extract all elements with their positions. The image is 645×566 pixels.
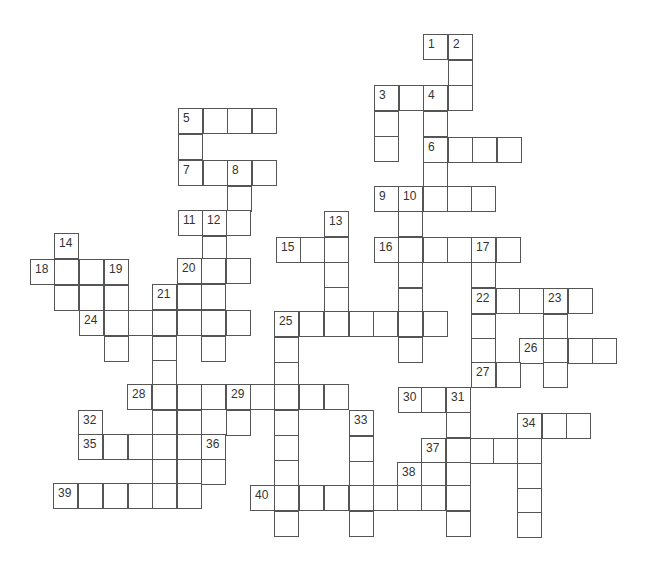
- crossword-cell[interactable]: [128, 310, 153, 336]
- crossword-cell-33[interactable]: 33: [349, 410, 374, 436]
- crossword-cell[interactable]: [398, 237, 423, 263]
- crossword-cell[interactable]: [177, 310, 202, 336]
- crossword-cell-32[interactable]: 32: [78, 410, 103, 436]
- crossword-cell-25[interactable]: 25: [274, 311, 299, 337]
- crossword-cell[interactable]: [79, 285, 104, 311]
- crossword-cell[interactable]: [54, 285, 79, 311]
- crossword-cell[interactable]: [152, 384, 177, 410]
- crossword-cell[interactable]: [446, 511, 471, 537]
- crossword-cell-30[interactable]: 30: [398, 387, 423, 413]
- crossword-cell[interactable]: [324, 287, 349, 313]
- crossword-cell[interactable]: [227, 108, 252, 134]
- crossword-cell[interactable]: [496, 288, 521, 314]
- crossword-cell-9[interactable]: 9: [374, 186, 399, 212]
- crossword-cell-6[interactable]: 6: [423, 137, 448, 163]
- crossword-cell[interactable]: [397, 485, 422, 511]
- crossword-cell[interactable]: [104, 285, 129, 311]
- crossword-cell[interactable]: [398, 337, 423, 363]
- crossword-cell-8[interactable]: 8: [227, 160, 252, 186]
- crossword-cell[interactable]: [517, 512, 542, 538]
- crossword-cell[interactable]: [471, 262, 496, 288]
- crossword-cell[interactable]: [349, 485, 374, 511]
- crossword-cell[interactable]: [421, 485, 446, 511]
- crossword-cell[interactable]: [152, 459, 177, 485]
- crossword-cell[interactable]: [446, 412, 471, 438]
- crossword-cell-23[interactable]: 23: [543, 288, 568, 314]
- crossword-cell[interactable]: [274, 435, 299, 461]
- crossword-cell-10[interactable]: 10: [398, 186, 423, 212]
- crossword-cell[interactable]: [421, 387, 446, 413]
- crossword-cell[interactable]: [104, 336, 129, 362]
- crossword-cell[interactable]: [399, 85, 424, 111]
- crossword-cell-15[interactable]: 15: [276, 237, 301, 263]
- crossword-cell[interactable]: [349, 461, 374, 487]
- crossword-cell-35[interactable]: 35: [78, 434, 103, 460]
- crossword-cell[interactable]: [324, 384, 349, 410]
- crossword-cell[interactable]: [398, 211, 423, 237]
- crossword-cell[interactable]: [446, 485, 471, 511]
- crossword-cell-13[interactable]: 13: [324, 211, 349, 237]
- crossword-cell-16[interactable]: 16: [374, 237, 399, 263]
- crossword-cell-19[interactable]: 19: [104, 259, 129, 285]
- crossword-cell-26[interactable]: 26: [519, 338, 544, 364]
- crossword-cell[interactable]: [497, 137, 522, 163]
- crossword-cell[interactable]: [177, 284, 202, 310]
- crossword-cell[interactable]: [592, 338, 617, 364]
- crossword-cell-20[interactable]: 20: [177, 258, 202, 284]
- crossword-cell[interactable]: [373, 485, 398, 511]
- crossword-cell-24[interactable]: 24: [79, 310, 104, 336]
- crossword-cell-3[interactable]: 3: [374, 85, 399, 111]
- crossword-cell[interactable]: [201, 384, 226, 410]
- crossword-cell[interactable]: [349, 436, 374, 462]
- crossword-cell[interactable]: [252, 160, 277, 186]
- crossword-cell[interactable]: [568, 288, 593, 314]
- crossword-cell[interactable]: [178, 134, 203, 160]
- crossword-cell[interactable]: [299, 311, 324, 337]
- crossword-cell[interactable]: [496, 362, 521, 388]
- crossword-cell[interactable]: [152, 336, 177, 362]
- crossword-cell-31[interactable]: 31: [446, 387, 471, 413]
- crossword-cell-27[interactable]: 27: [471, 362, 496, 388]
- crossword-cell-39[interactable]: 39: [53, 483, 78, 509]
- crossword-cell[interactable]: [152, 483, 177, 509]
- crossword-cell-5[interactable]: 5: [178, 108, 203, 134]
- crossword-cell[interactable]: [226, 210, 251, 236]
- crossword-cell[interactable]: [448, 60, 473, 86]
- crossword-cell[interactable]: [274, 460, 299, 486]
- crossword-cell-18[interactable]: 18: [30, 259, 55, 285]
- crossword-cell[interactable]: [274, 485, 299, 511]
- crossword-cell-29[interactable]: 29: [226, 384, 251, 410]
- crossword-cell[interactable]: [472, 137, 497, 163]
- crossword-cell[interactable]: [152, 434, 177, 460]
- crossword-cell[interactable]: [201, 336, 226, 362]
- crossword-cell[interactable]: [103, 434, 128, 460]
- crossword-cell[interactable]: [300, 237, 325, 263]
- crossword-cell[interactable]: [177, 459, 202, 485]
- crossword-cell[interactable]: [274, 337, 299, 363]
- crossword-cell[interactable]: [471, 314, 496, 340]
- crossword-cell[interactable]: [447, 237, 472, 263]
- crossword-cell[interactable]: [398, 311, 423, 337]
- crossword-cell[interactable]: [324, 311, 349, 337]
- crossword-cell[interactable]: [226, 410, 251, 436]
- crossword-cell[interactable]: [201, 284, 226, 310]
- crossword-cell[interactable]: [177, 434, 202, 460]
- crossword-cell[interactable]: [496, 237, 521, 263]
- crossword-cell[interactable]: [324, 485, 349, 511]
- crossword-cell[interactable]: [324, 237, 349, 263]
- crossword-cell[interactable]: [252, 108, 277, 134]
- crossword-cell[interactable]: [373, 311, 398, 337]
- crossword-cell[interactable]: [177, 384, 202, 410]
- crossword-cell[interactable]: [78, 483, 103, 509]
- crossword-cell[interactable]: [79, 259, 104, 285]
- crossword-cell[interactable]: [274, 410, 299, 436]
- crossword-cell[interactable]: [448, 137, 473, 163]
- crossword-cell[interactable]: [201, 459, 226, 485]
- crossword-cell-11[interactable]: 11: [178, 210, 203, 236]
- crossword-cell[interactable]: [517, 463, 542, 489]
- crossword-cell[interactable]: [517, 438, 542, 464]
- crossword-cell[interactable]: [152, 410, 177, 436]
- crossword-cell[interactable]: [568, 338, 593, 364]
- crossword-cell[interactable]: [519, 288, 544, 314]
- crossword-cell[interactable]: [226, 310, 251, 336]
